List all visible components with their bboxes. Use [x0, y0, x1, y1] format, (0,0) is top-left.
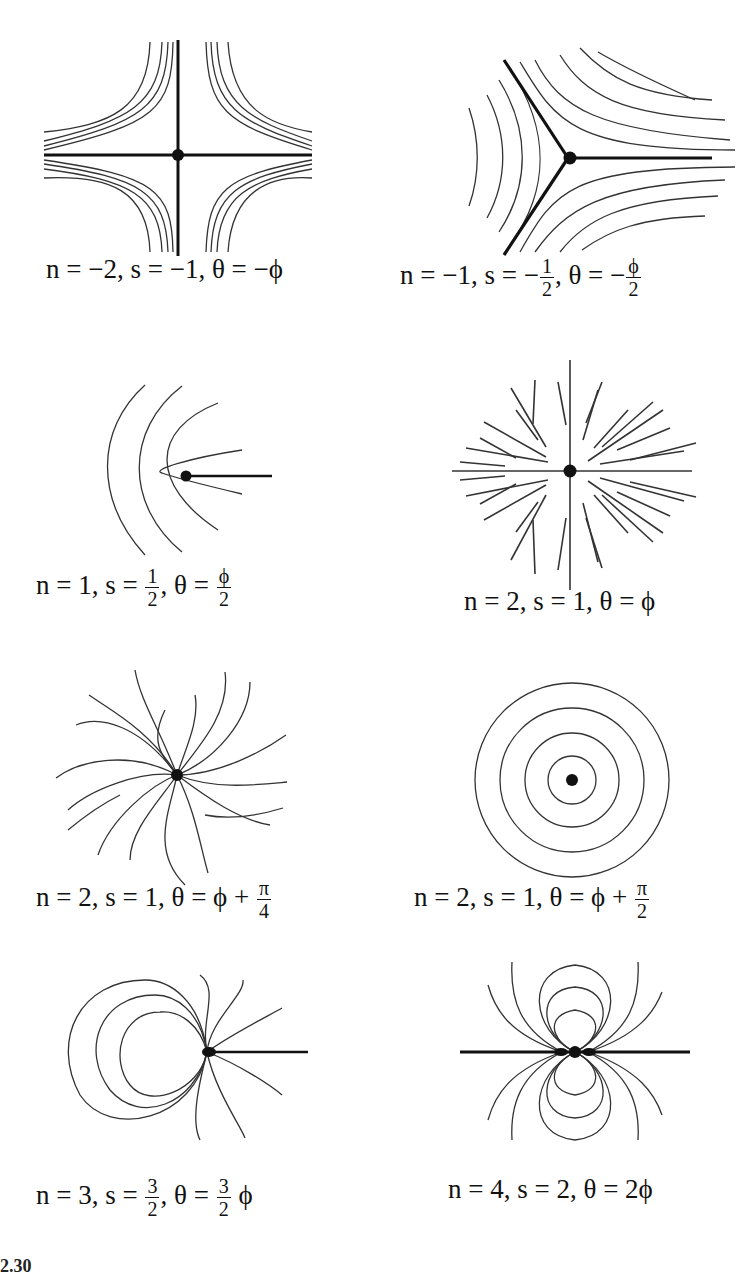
caption-text: n = 2, s = 1, θ = ϕ	[464, 586, 655, 616]
theta-numerator: 3	[217, 1176, 231, 1198]
theta-numerator: ϕ	[626, 256, 641, 278]
caption-text: n = −2, s = −1, θ = −ϕ	[46, 254, 283, 284]
caption-text: n = −1, s =	[400, 260, 524, 290]
s-denominator: 2	[540, 278, 554, 299]
theta-numerator: π	[257, 878, 271, 900]
s-numerator: 3	[145, 1176, 159, 1198]
caption-text: n = 2, s = 1, θ = ϕ +	[414, 882, 634, 912]
theta-fraction: 32	[217, 1176, 231, 1219]
caption-panel-2: n = −1, s = −12, θ = −ϕ2	[400, 256, 642, 299]
panel-n-2-spiral: n = 2, s = 1, θ = ϕ + π4	[0, 620, 370, 940]
caption-text: n = 4, s = 2, θ = 2ϕ	[448, 1174, 653, 1204]
caption-panel-7: n = 3, s = 32, θ = 32 ϕ	[36, 1176, 253, 1219]
theta-denominator: 2	[626, 278, 641, 299]
caption-text: n = 1, s =	[36, 570, 144, 600]
theta-sign: −	[610, 260, 625, 290]
theta-numerator: π	[635, 878, 649, 900]
caption-text: n = 2, s = 1, θ = ϕ +	[36, 882, 256, 912]
caption-text: , θ =	[160, 570, 215, 600]
caption-panel-5: n = 2, s = 1, θ = ϕ + π4	[36, 878, 272, 921]
radial-defect-diagram	[370, 330, 737, 590]
s-fraction: 12	[145, 566, 159, 609]
circular-defect-diagram	[370, 620, 737, 890]
theta-numerator: ϕ	[217, 566, 232, 588]
panel-n-3: n = 3, s = 32, θ = 32 ϕ	[0, 940, 370, 1240]
theta-fraction: π4	[257, 878, 271, 921]
panel-n-1: n = 1, s = 12, θ = ϕ2	[0, 330, 370, 620]
caption-text: ϕ	[232, 1180, 253, 1210]
half-disclination-diagram	[0, 330, 370, 560]
s-fraction: 32	[145, 1176, 159, 1219]
panel-n-2-circular: n = 2, s = 1, θ = ϕ + π2	[370, 620, 737, 940]
theta-denominator: 2	[217, 588, 232, 609]
panel-n-minus2: n = −2, s = −1, θ = −ϕ	[0, 0, 370, 300]
s-numerator: 1	[145, 566, 159, 588]
caption-text: , θ =	[555, 260, 610, 290]
caption-panel-4: n = 2, s = 1, θ = ϕ	[464, 588, 655, 615]
caption-panel-6: n = 2, s = 1, θ = ϕ + π2	[414, 878, 650, 921]
s-numerator: 1	[540, 256, 554, 278]
theta-denominator: 2	[635, 900, 649, 921]
s-denominator: 2	[145, 588, 159, 609]
panel-n-4: n = 4, s = 2, θ = 2ϕ	[370, 940, 737, 1240]
caption-panel-1: n = −2, s = −1, θ = −ϕ	[46, 256, 283, 283]
theta-fraction: π2	[635, 878, 649, 921]
s-denominator: 2	[145, 1198, 159, 1219]
s-fraction: 12	[540, 256, 554, 299]
caption-text: , θ =	[160, 1180, 215, 1210]
s-sign: −	[524, 260, 539, 290]
theta-fraction: ϕ2	[217, 566, 232, 609]
caption-panel-3: n = 1, s = 12, θ = ϕ2	[36, 566, 232, 609]
hyperbolic-saddle-diagram	[0, 0, 370, 260]
dipolar-defect-diagram	[370, 940, 737, 1170]
threefold-defect-diagram	[370, 0, 737, 260]
spiral-defect-diagram	[0, 620, 370, 890]
caption-panel-8: n = 4, s = 2, θ = 2ϕ	[448, 1176, 653, 1203]
figure-number-fragment: 2.30	[0, 1256, 32, 1276]
panel-n-2-radial: n = 2, s = 1, θ = ϕ	[370, 330, 737, 620]
theta-denominator: 2	[217, 1198, 231, 1219]
three-halves-defect-diagram	[0, 940, 370, 1160]
theta-fraction: ϕ2	[626, 256, 641, 299]
caption-text: n = 3, s =	[36, 1180, 144, 1210]
panel-n-minus1: n = −1, s = −12, θ = −ϕ2	[370, 0, 737, 330]
theta-denominator: 4	[257, 900, 271, 921]
